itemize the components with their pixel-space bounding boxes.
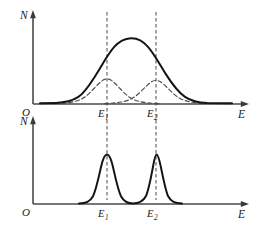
resolved-doublet-curve xyxy=(79,154,182,203)
top-y-axis-label: N xyxy=(19,9,29,21)
top-tick-sub-e2: 2 xyxy=(154,114,158,122)
top-tick-label-e1: E xyxy=(97,108,105,119)
top-x-axis-arrow-icon xyxy=(241,101,249,107)
top-tick-sub-e1: 1 xyxy=(105,114,109,122)
bottom-x-axis-arrow-icon xyxy=(241,201,249,207)
bottom-tick-sub-e2: 2 xyxy=(154,214,158,222)
top-panel: N E O E 1 E 2 xyxy=(19,9,249,122)
bottom-y-axis-label: N xyxy=(19,115,29,127)
bottom-tick-sub-e1: 1 xyxy=(105,214,109,222)
bottom-tick-label-e1: E xyxy=(97,208,105,219)
top-tick-label-e2: E xyxy=(146,108,154,119)
figure-container: N E O E 1 E 2 N E O E 1 E 2 xyxy=(0,0,265,243)
top-y-axis-arrow-icon xyxy=(30,10,36,18)
envelope-curve xyxy=(40,38,232,103)
bottom-y-axis-arrow-icon xyxy=(30,116,36,124)
spectra-figure: N E O E 1 E 2 N E O E 1 E 2 xyxy=(0,0,265,243)
top-x-axis-label: E xyxy=(237,108,245,120)
bottom-panel: N E O E 1 E 2 xyxy=(19,115,249,222)
bottom-tick-label-e2: E xyxy=(146,208,154,219)
bottom-origin-label: O xyxy=(22,206,30,218)
bottom-x-axis-label: E xyxy=(237,208,245,220)
